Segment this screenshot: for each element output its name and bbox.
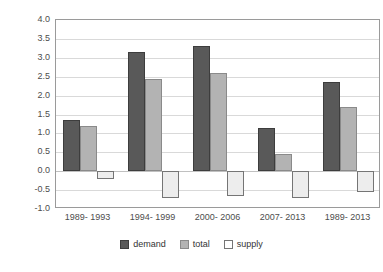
legend-item-total[interactable]: total (180, 240, 210, 249)
bar-group (186, 20, 251, 207)
y-axis-tick-label: 2.5 (20, 71, 50, 80)
bar-demand (193, 46, 210, 171)
legend-item-demand[interactable]: demand (120, 240, 166, 249)
bar-group (316, 20, 380, 207)
y-axis-tick-label: 0.0 (20, 166, 50, 175)
bar-demand (128, 52, 145, 171)
x-axis-tick-label: 1994- 1999 (120, 212, 185, 223)
y-axis-tick-label: 0.5 (20, 147, 50, 156)
bar-supply (162, 171, 179, 197)
legend-swatch-total (180, 240, 189, 249)
y-axis-tick-label: -0.5 (20, 185, 50, 194)
legend-label: demand (133, 240, 166, 249)
plot-area (55, 19, 380, 208)
chart-legend: demandtotalsupply (0, 240, 383, 249)
bar-group (56, 20, 121, 207)
y-axis-tick-label: 1.0 (20, 128, 50, 137)
bar-demand (323, 82, 340, 171)
legend-label: total (193, 240, 210, 249)
bar-demand (63, 120, 80, 171)
bar-group (251, 20, 316, 207)
y-axis: 4.03.53.02.52.01.51.00.50.0-0.5-1.0 (14, 0, 50, 272)
bar-total (210, 73, 227, 171)
legend-label: supply (237, 240, 263, 249)
bar-total (145, 79, 162, 172)
bar-supply (97, 171, 114, 179)
y-axis-tick-label: 4.0 (20, 15, 50, 24)
bar-total (340, 107, 357, 171)
x-axis-tick-label: 2007- 2013 (250, 212, 315, 223)
x-axis-tick-label: 2000- 2006 (185, 212, 250, 223)
y-axis-tick-label: 1.5 (20, 109, 50, 118)
bar-supply (357, 171, 374, 192)
x-axis: 1989- 19931994- 19992000- 20062007- 2013… (55, 212, 380, 230)
bars-layer (56, 20, 379, 207)
y-axis-tick-label: -1.0 (20, 204, 50, 213)
y-axis-tick-label: 2.0 (20, 90, 50, 99)
bar-demand (258, 128, 275, 171)
legend-swatch-demand (120, 240, 129, 249)
bar-supply (227, 171, 244, 196)
x-axis-tick-label: 1989- 2013 (315, 212, 380, 223)
y-axis-tick-label: 3.0 (20, 52, 50, 61)
y-axis-tick-label: 3.5 (20, 33, 50, 42)
bar-chart: 4.03.53.02.52.01.51.00.50.0-0.5-1.0 1989… (0, 0, 383, 272)
bar-total (80, 126, 97, 171)
bar-group (121, 20, 186, 207)
bar-supply (292, 171, 309, 197)
legend-swatch-supply (224, 240, 233, 249)
bar-total (275, 154, 292, 171)
x-axis-tick-label: 1989- 1993 (55, 212, 120, 223)
legend-item-supply[interactable]: supply (224, 240, 263, 249)
